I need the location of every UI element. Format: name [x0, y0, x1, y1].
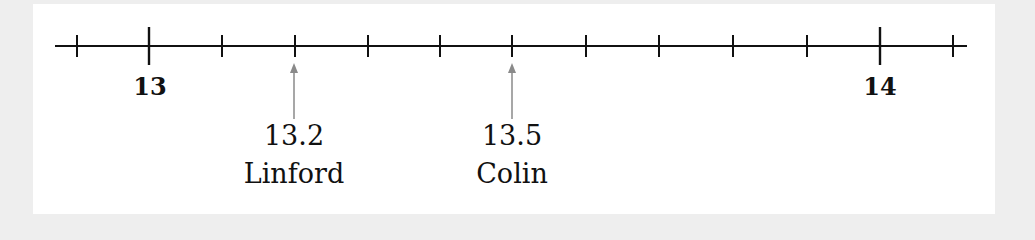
marker-value-linford: 13.2	[264, 121, 324, 151]
marker-name-linford: Linford	[244, 158, 344, 190]
tick-label-13: 13	[133, 72, 166, 101]
marker-name-colin: Colin	[476, 158, 548, 190]
tick-label-14: 14	[863, 72, 896, 101]
arrow-linford-icon	[290, 63, 298, 119]
marker-value-colin: 13.5	[482, 121, 542, 151]
arrow-colin-icon	[508, 63, 516, 119]
